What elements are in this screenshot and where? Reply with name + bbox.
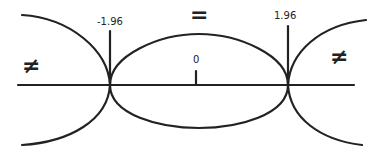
tick-label-neg-1-96: -1.96 xyxy=(97,17,123,27)
tick-label-zero: 0 xyxy=(193,55,199,65)
not-equal-left-symbol: ≠ xyxy=(22,55,40,77)
center-ellipse xyxy=(110,34,288,128)
equal-center-symbol: = xyxy=(190,4,208,26)
left-curve xyxy=(22,15,110,145)
tick-label-pos-1-96: 1.96 xyxy=(274,11,296,21)
not-equal-right-symbol: ≠ xyxy=(330,46,348,68)
right-curve xyxy=(288,20,366,145)
